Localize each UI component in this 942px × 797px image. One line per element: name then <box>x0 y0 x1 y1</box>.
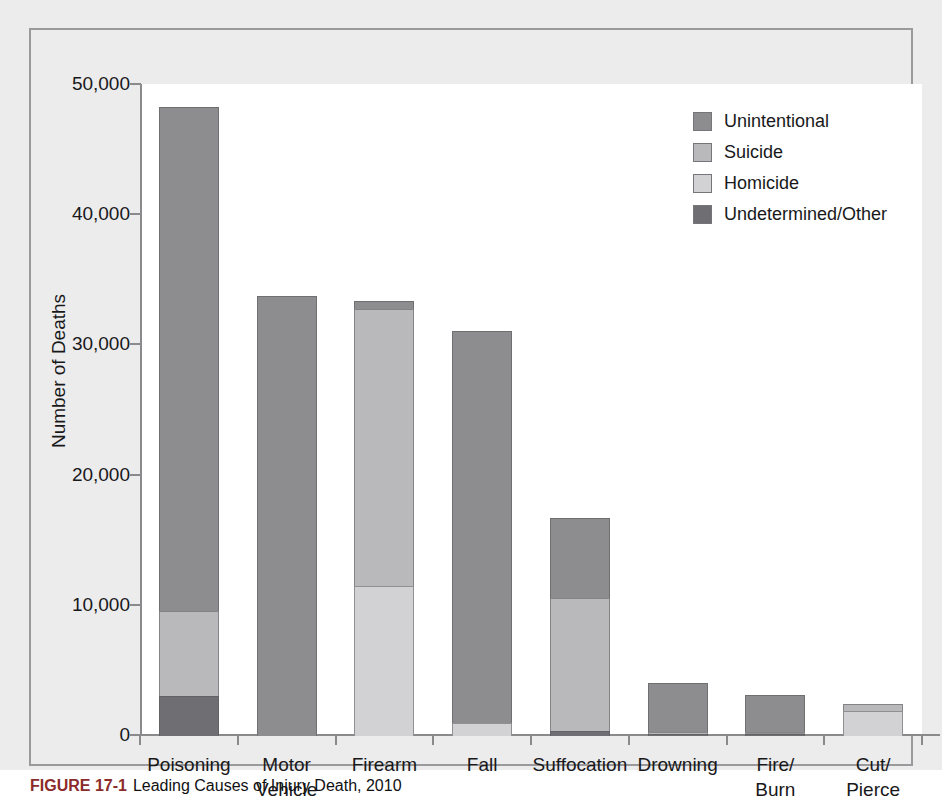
x-axis-tick <box>432 734 434 745</box>
bar-stack <box>452 331 512 735</box>
bar-segment <box>354 586 414 736</box>
x-axis-category-label-line: Poisoning <box>140 752 238 777</box>
legend-item: Homicide <box>693 170 903 196</box>
x-axis-tick <box>530 734 532 745</box>
bar-group <box>257 84 317 735</box>
legend-item: Unintentional <box>693 108 903 134</box>
bar-stack <box>843 704 903 735</box>
x-axis-category-label: Poisoning <box>140 752 238 777</box>
x-axis-category-label-line: Cut/ <box>824 752 922 777</box>
x-axis-tick <box>628 734 630 745</box>
figure-root: 010,00020,00030,00040,00050,000 Number o… <box>0 0 942 797</box>
bar-segment <box>648 683 708 732</box>
bar-segment <box>745 695 805 733</box>
x-axis-tick <box>921 734 923 745</box>
legend-item: Undetermined/Other <box>693 201 903 227</box>
bar-stack <box>354 301 414 735</box>
chart-panel: 010,00020,00030,00040,00050,000 Number o… <box>29 28 913 766</box>
x-axis-category-label: Fall <box>433 752 531 777</box>
legend-swatch-icon <box>693 143 712 162</box>
bar-stack <box>159 107 219 735</box>
x-axis-category-label: Firearm <box>336 752 434 777</box>
x-axis-category-label-line: Fall <box>433 752 531 777</box>
figure-number: FIGURE 17-1 <box>30 777 127 794</box>
x-axis-category-label-line: Burn <box>727 777 825 797</box>
bar-group <box>354 84 414 735</box>
y-axis-tick-label: 50,000 <box>44 73 130 95</box>
legend-item-label: Homicide <box>724 173 799 194</box>
x-axis-tick <box>237 734 239 745</box>
bar-segment <box>550 598 610 732</box>
x-axis-category-label: Fire/Burn <box>727 752 825 797</box>
bar-group <box>159 84 219 735</box>
bar-segment <box>843 711 903 736</box>
bar-segment <box>452 723 512 736</box>
bar-segment <box>159 696 219 736</box>
y-axis-tick-label: 10,000 <box>44 594 130 616</box>
x-axis-tick <box>726 734 728 745</box>
x-axis-category-label: Cut/Pierce <box>824 752 922 797</box>
x-axis-category-label-line: Suffocation <box>531 752 629 777</box>
y-axis-tick-label: 40,000 <box>44 203 130 225</box>
legend-item-label: Unintentional <box>724 111 829 132</box>
x-axis-category-label: Suffocation <box>531 752 629 777</box>
x-axis-category-label-line: Firearm <box>336 752 434 777</box>
bar-stack <box>257 296 317 735</box>
bar-segment <box>550 518 610 599</box>
x-axis-category-label-line: Motor <box>238 752 336 777</box>
x-axis-tick <box>139 734 141 745</box>
bar-segment <box>159 107 219 612</box>
bar-segment <box>745 734 805 736</box>
bar-segment <box>257 296 317 736</box>
legend-swatch-icon <box>693 205 712 224</box>
bar-stack <box>648 683 708 735</box>
x-axis-category-label-line: Fire/ <box>727 752 825 777</box>
x-axis-tick <box>335 734 337 745</box>
legend-item-label: Suicide <box>724 142 783 163</box>
legend-item: Suicide <box>693 139 903 165</box>
y-axis-label: Number of Deaths <box>48 251 70 491</box>
figure-caption-text: Leading Causes of Injury Death, 2010 <box>133 777 402 794</box>
legend-swatch-icon <box>693 112 712 131</box>
bar-segment <box>648 734 708 736</box>
x-axis-category-label-line: Drowning <box>629 752 727 777</box>
bar-segment <box>550 731 610 736</box>
bar-stack <box>550 518 610 735</box>
legend-swatch-icon <box>693 174 712 193</box>
x-axis-category-label-line: Pierce <box>824 777 922 797</box>
x-axis-tick <box>823 734 825 745</box>
bar-group <box>550 84 610 735</box>
x-axis-category-label: Drowning <box>629 752 727 777</box>
bar-stack <box>745 695 805 735</box>
bar-segment <box>452 331 512 724</box>
bar-segment <box>159 611 219 697</box>
y-axis-tick-label: 0 <box>44 724 130 746</box>
bar-segment <box>354 309 414 588</box>
legend-item-label: Undetermined/Other <box>724 204 887 225</box>
chart-legend: UnintentionalSuicideHomicideUndetermined… <box>693 108 903 232</box>
bar-group <box>452 84 512 735</box>
figure-caption: FIGURE 17-1Leading Causes of Injury Deat… <box>30 777 402 795</box>
